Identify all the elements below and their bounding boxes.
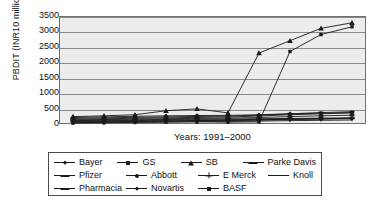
legend-label: Parke Davis <box>268 158 317 167</box>
legend-item-basf[interactable]: BASF <box>198 184 268 193</box>
data-point <box>257 120 260 123</box>
series-line <box>73 23 352 117</box>
legend-label: Bayer <box>79 158 103 167</box>
legend-item-bayer[interactable]: Bayer <box>54 158 117 167</box>
data-point <box>287 38 293 43</box>
data-point <box>256 50 262 55</box>
plot-area <box>59 16 366 124</box>
y-tick-label: 0 <box>25 119 59 128</box>
legend-item-parke-davis[interactable]: Parke Davis <box>243 158 317 167</box>
data-point <box>164 120 167 123</box>
data-point <box>288 50 291 53</box>
data-point <box>288 113 293 115</box>
legend-label: GS <box>142 158 155 167</box>
series-basf <box>71 25 353 125</box>
legend-marker-triangle-icon <box>181 158 202 167</box>
series-line <box>73 27 352 123</box>
y-tick-label: 1500 <box>25 73 59 82</box>
legend-row: PharmaciaNovartisBASF <box>54 182 316 195</box>
series-sb <box>70 20 355 119</box>
data-point <box>319 33 322 36</box>
legend-item-sb[interactable]: SB <box>181 158 243 167</box>
data-point <box>350 111 355 113</box>
data-point <box>349 20 355 25</box>
data-point <box>71 121 74 124</box>
legend-marker-plus-icon <box>198 171 219 180</box>
data-point <box>133 116 138 118</box>
legend-label: BASF <box>223 184 247 193</box>
legend-item-knoll[interactable]: Knoll <box>268 171 313 180</box>
legend-label: Novartis <box>151 184 184 193</box>
legend-item-e-merck[interactable]: E Merck <box>198 171 268 180</box>
legend-item-novartis[interactable]: Novartis <box>126 184 198 193</box>
chart-legend: BayerGSSBParke DavisPfizerAbbottE MerckK… <box>48 152 322 196</box>
legend-marker-none-icon <box>268 171 289 180</box>
legend-label: E Merck <box>223 171 256 180</box>
y-tick-label: 3000 <box>25 26 59 35</box>
data-point <box>350 25 353 28</box>
legend-item-gs[interactable]: GS <box>117 158 180 167</box>
y-tick-label: 3500 <box>25 11 59 20</box>
legend-marker-dash-icon <box>54 171 75 180</box>
y-tick-label: 500 <box>25 104 59 113</box>
data-point <box>133 121 136 124</box>
legend-marker-dash-icon <box>243 158 264 167</box>
legend-marker-diamond-icon <box>126 184 147 193</box>
legend-row: BayerGSSBParke Davis <box>54 156 316 169</box>
y-axis-title: PBDIT (INR10 million) <box>11 0 21 95</box>
y-tick-label: 2500 <box>25 42 59 51</box>
legend-label: Pharmacia <box>79 184 122 193</box>
y-tick-label: 1000 <box>25 88 59 97</box>
legend-item-abbott[interactable]: Abbott <box>126 171 198 180</box>
legend-label: Pfizer <box>79 171 102 180</box>
data-point <box>195 120 198 123</box>
legend-marker-dash-icon <box>54 184 75 193</box>
legend-label: Abbott <box>151 171 177 180</box>
data-point <box>195 115 200 117</box>
legend-row: PfizerAbbottE MerckKnoll <box>54 169 316 182</box>
data-point <box>102 121 105 124</box>
x-axis-caption: Years: 1991–2000 <box>59 131 366 142</box>
data-point <box>226 115 231 117</box>
legend-marker-square-icon <box>198 184 219 193</box>
legend-marker-square-icon <box>117 158 138 167</box>
legend-item-pfizer[interactable]: Pfizer <box>54 171 126 180</box>
legend-label: SB <box>206 158 218 167</box>
legend-item-pharmacia[interactable]: Pharmacia <box>54 184 126 193</box>
y-tick-label: 2000 <box>25 57 59 66</box>
data-point <box>226 120 229 123</box>
data-point <box>257 114 262 116</box>
data-point <box>164 116 169 118</box>
legend-marker-circle-icon <box>126 171 147 180</box>
legend-label: Knoll <box>293 171 313 180</box>
legend-marker-diamond-icon <box>54 158 75 167</box>
chart-figure: PBDIT (INR10 million) 350030002500200015… <box>0 0 372 209</box>
series-layer <box>59 16 366 124</box>
data-point <box>350 114 355 116</box>
data-point <box>319 112 324 114</box>
